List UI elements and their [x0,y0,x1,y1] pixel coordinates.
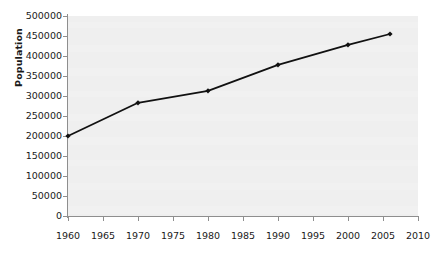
y-tick-label-text: 50000 [10,190,62,201]
x-tick-mark [103,217,104,221]
y-tick-label-text: 400000 [10,50,62,61]
x-tick-mark [278,217,279,221]
y-tick-label: 0 [0,210,62,222]
x-tick-label-text: 1995 [301,230,325,241]
x-tick-label: 2000 [328,224,368,243]
y-tick-mark [63,76,67,77]
x-tick-mark [68,217,69,221]
x-tick-mark [418,217,419,221]
y-tick-mark [63,16,67,17]
y-tick-label: 450000 [0,30,62,42]
plot-band [68,68,418,76]
x-tick-label: 1960 [48,224,88,243]
y-tick-label-text: 350000 [10,70,62,81]
x-tick-label-text: 2000 [336,230,360,241]
y-tick-mark [63,216,67,217]
y-tick-mark [63,96,67,97]
x-tick-mark [243,217,244,221]
x-tick-label-text: 1975 [161,230,185,241]
x-tick-label-text: 1980 [196,230,220,241]
x-tick-label: 1995 [293,224,333,243]
x-tick-mark [138,217,139,221]
plot-band [68,137,418,145]
y-tick-label-text: 450000 [10,30,62,41]
y-tick-label-text: 150000 [10,150,62,161]
x-tick-label: 1985 [223,224,263,243]
y-tick-mark [63,156,67,157]
y-axis-line [67,14,68,218]
y-tick-mark [63,196,67,197]
y-tick-label-text: 250000 [10,110,62,121]
y-tick-label: 400000 [0,50,62,62]
x-tick-label-text: 1970 [126,230,150,241]
y-tick-label-text: 100000 [10,170,62,181]
y-tick-mark [63,176,67,177]
population-line-chart: Population 05000010000015000020000025000… [0,0,446,258]
y-tick-label: 100000 [0,170,62,182]
x-tick-label: 1980 [188,224,228,243]
y-tick-label: 500000 [0,10,62,22]
x-tick-mark [173,217,174,221]
plot-band [68,160,418,166]
x-tick-label: 2005 [363,224,403,243]
y-tick-label-text: 0 [10,210,62,221]
plot-band [68,22,418,28]
plot-band [68,114,418,121]
y-tick-label-text: 500000 [10,10,62,21]
x-tick-label: 2010 [398,224,438,243]
plot-area [68,16,418,216]
y-tick-label: 50000 [0,190,62,202]
x-tick-mark [313,217,314,221]
x-tick-label-text: 1990 [266,230,290,241]
x-tick-label: 1990 [258,224,298,243]
x-tick-label: 1970 [118,224,158,243]
x-tick-label-text: 1960 [56,230,80,241]
x-tick-mark [383,217,384,221]
y-tick-label: 150000 [0,150,62,162]
y-tick-label-text: 200000 [10,130,62,141]
y-tick-label: 350000 [0,70,62,82]
plot-band [68,206,418,214]
y-tick-label: 200000 [0,130,62,142]
x-tick-label-text: 1985 [231,230,255,241]
y-tick-mark [63,136,67,137]
y-tick-mark [63,56,67,57]
x-tick-label-text: 1965 [91,230,115,241]
y-tick-mark [63,116,67,117]
plot-band [68,183,418,190]
x-tick-label: 1965 [83,224,123,243]
y-tick-label-text: 300000 [10,90,62,101]
x-tick-label-text: 2005 [371,230,395,241]
x-tick-mark [348,217,349,221]
x-tick-mark [208,217,209,221]
plot-band [68,45,418,52]
plot-band [68,91,418,97]
y-tick-label: 250000 [0,110,62,122]
y-tick-mark [63,36,67,37]
y-tick-label: 300000 [0,90,62,102]
x-tick-label-text: 2010 [406,230,430,241]
x-tick-label: 1975 [153,224,193,243]
